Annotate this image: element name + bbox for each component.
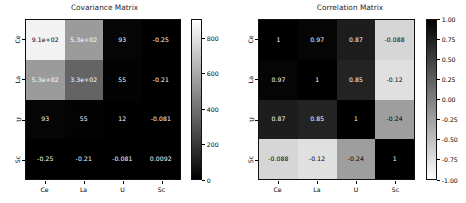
heatmap-cell: 9.1e+02	[26, 20, 65, 60]
heatmap-cell: 0.0092	[142, 139, 181, 179]
colorbar-tick-label: 200	[207, 141, 219, 148]
y-tick-label: Sc	[241, 140, 258, 180]
x-axis-ticks-covariance: CeLaUSc	[25, 181, 181, 197]
heatmap-cell: 1	[337, 100, 376, 140]
y-tick-text: La	[247, 76, 254, 83]
panel-covariance: Covariance Matrix 9.1e+025.3e+0293-0.255…	[0, 0, 233, 203]
heatmap-cell: -0.081	[142, 100, 181, 140]
x-tick-label: U	[103, 181, 142, 197]
colorbar-tick-mark	[437, 139, 440, 140]
y-tick-text: Ce	[13, 35, 20, 43]
heatmap-cell: -0.12	[375, 60, 414, 100]
heatmap-cell: -0.081	[103, 139, 142, 179]
y-tick-text: Ce	[246, 35, 253, 43]
heatmap-cell: -0.21	[142, 60, 181, 100]
colorbar-correlation: 1.000.750.500.250.00-0.25-0.50-0.75-1.00	[426, 19, 437, 180]
heatmap-cell: -0.088	[259, 139, 298, 179]
heatmap-cell: 55	[65, 100, 104, 140]
y-tick-label: La	[241, 59, 258, 99]
colorbar-tick-mark	[202, 144, 205, 145]
colorbar-tick-mark	[202, 38, 205, 39]
heatmap-cell: 0.85	[298, 100, 337, 140]
heatmap-cell: -0.21	[65, 139, 104, 179]
colorbar-tick-label: 800	[207, 35, 219, 42]
colorbar-tick-mark	[437, 19, 440, 20]
colorbar-tick-label: 0	[207, 177, 211, 184]
colorbar-tick-mark	[202, 73, 205, 74]
y-tick-text: U	[15, 117, 22, 122]
x-tick-label: Ce	[258, 181, 297, 197]
heatmap-cell: 0.87	[337, 20, 376, 60]
colorbar-tick-mark	[437, 119, 440, 120]
x-axis-ticks-correlation: CeLaUSc	[258, 181, 415, 197]
heatmap-cell: 0.97	[259, 60, 298, 100]
heatmap-cell: 3.3e+02	[65, 60, 104, 100]
colorbar-tick-mark	[437, 59, 440, 60]
colorbar-tick-label: 0.75	[442, 36, 456, 43]
heatmap-cell: -0.088	[375, 20, 414, 60]
heatmap-cell: 0.85	[337, 60, 376, 100]
y-axis-ticks-covariance: CeLaUSc	[8, 19, 25, 180]
colorbar-tick-mark	[437, 159, 440, 160]
colorbar-tick-label: 0.25	[442, 76, 456, 83]
colorbar-gradient-covariance	[191, 19, 202, 180]
colorbar-tick-mark	[437, 79, 440, 80]
y-tick-label: U	[241, 100, 258, 140]
figure-canvas: Covariance Matrix 9.1e+025.3e+0293-0.255…	[0, 0, 466, 203]
heatmap-cell: 0.97	[298, 20, 337, 60]
heatmap-cell: 5.3e+02	[26, 60, 65, 100]
colorbar-tick-label: 1.00	[442, 16, 456, 23]
heatmap-cell: -0.24	[375, 100, 414, 140]
colorbar-tick-label: -0.75	[442, 157, 458, 164]
colorbar-tick-label: -1.00	[442, 177, 458, 184]
colorbar-tick-label: 400	[207, 106, 219, 113]
colorbar-tick-label: 0.00	[442, 96, 456, 103]
heatmap-cell: -0.25	[26, 139, 65, 179]
colorbar-tick-mark	[437, 39, 440, 40]
y-tick-label: Ce	[8, 19, 25, 59]
heatmap-correlation: 10.970.87-0.0880.9710.85-0.120.870.851-0…	[258, 19, 415, 180]
heatmap-cell: 12	[103, 100, 142, 140]
heatmap-cell: 55	[103, 60, 142, 100]
heatmap-cell: 5.3e+02	[65, 20, 104, 60]
y-tick-label: Sc	[8, 140, 25, 180]
colorbar-tick-mark	[437, 180, 440, 181]
heatmap-cell: 1	[298, 60, 337, 100]
y-tick-text: U	[248, 117, 255, 122]
x-tick-label: Sc	[376, 181, 415, 197]
colorbar-tick-mark	[202, 180, 205, 181]
x-tick-label: La	[297, 181, 336, 197]
heatmap-cell: 1	[375, 139, 414, 179]
y-tick-text: La	[14, 76, 21, 83]
colorbar-tick-mark	[437, 99, 440, 100]
colorbar-tick-label: -0.50	[442, 136, 458, 143]
heatmap-cell: 93	[103, 20, 142, 60]
panel-title-correlation: Correlation Matrix	[257, 3, 443, 13]
heatmap-cell: -0.25	[142, 20, 181, 60]
colorbar-tick-mark	[202, 109, 205, 110]
heatmap-cell: -0.24	[337, 139, 376, 179]
heatmap-covariance: 9.1e+025.3e+0293-0.255.3e+023.3e+0255-0.…	[25, 19, 181, 180]
heatmap-cell: 93	[26, 100, 65, 140]
colorbar-covariance: 8006004002000	[191, 19, 202, 180]
x-tick-label: Sc	[142, 181, 181, 197]
x-tick-label: U	[337, 181, 376, 197]
colorbar-ticks-correlation: 1.000.750.500.250.00-0.25-0.50-0.75-1.00	[437, 19, 466, 180]
heatmap-cell: 1	[259, 20, 298, 60]
colorbar-tick-label: 0.50	[442, 56, 456, 63]
heatmap-cell: -0.12	[298, 139, 337, 179]
y-axis-ticks-correlation: CeLaUSc	[241, 19, 258, 180]
y-tick-label: U	[8, 100, 25, 140]
colorbar-tick-label: 600	[207, 71, 219, 78]
panel-title-covariance: Covariance Matrix	[24, 3, 185, 13]
y-tick-label: Ce	[241, 19, 258, 59]
x-tick-label: Ce	[25, 181, 64, 197]
panel-correlation: Correlation Matrix 10.970.87-0.0880.9710…	[233, 0, 466, 203]
y-tick-text: Sc	[247, 156, 254, 163]
colorbar-tick-label: -0.25	[442, 116, 458, 123]
colorbar-gradient-correlation	[426, 19, 437, 180]
heatmap-cell: 0.87	[259, 100, 298, 140]
x-tick-label: La	[64, 181, 103, 197]
colorbar-ticks-covariance: 8006004002000	[202, 19, 232, 180]
y-tick-label: La	[8, 59, 25, 99]
